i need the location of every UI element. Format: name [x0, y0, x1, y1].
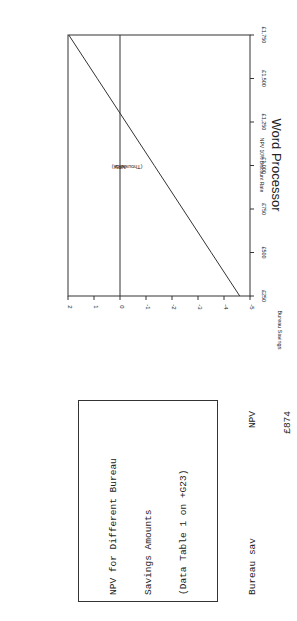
npv-line — [69, 35, 240, 296]
table-title-2: Savings Amounts — [143, 407, 155, 595]
npv-axis-ticks: 210-1-2-3-4-5 — [67, 296, 255, 310]
base-npv: £874 — [282, 411, 294, 503]
plot-frame — [68, 35, 250, 296]
table-header-row: Bureau sav NPV — [247, 407, 259, 595]
table-title-1: NPV for Different Bureau — [108, 407, 120, 595]
table-title-3: (Data Table 1 on +G23) — [178, 407, 190, 595]
chart-title: Word Processor — [269, 119, 284, 213]
y-axis-unit: (Thousands) — [111, 164, 142, 170]
x-axis-label: Bureau Savings — [277, 311, 283, 350]
header-bureau-sav: Bureau sav — [247, 503, 259, 595]
npv-tick-label: -5 — [249, 304, 255, 310]
npv-tick-label: -4 — [223, 304, 229, 310]
savings-tick-label: £500 — [261, 246, 267, 258]
npv-tick-label: -1 — [145, 304, 151, 310]
savings-tick-label: £750 — [261, 203, 267, 215]
savings-tick-label: £1,500 — [261, 70, 267, 87]
npv-tick-label: -3 — [197, 304, 203, 310]
npv-data-table: NPV for Different Bureau Savings Amounts… — [78, 400, 218, 602]
table-base-row: £874 — [282, 407, 294, 595]
npv-tick-label: -2 — [171, 304, 177, 310]
chart-subtitle: NPV 10% Discount Rate — [259, 138, 265, 193]
savings-tick-label: £250 — [261, 290, 267, 302]
header-npv: NPV — [247, 411, 259, 503]
npv-tick-label: 2 — [67, 305, 73, 309]
npv-tick-label: 1 — [93, 305, 99, 309]
npv-tick-label: 0 — [119, 305, 125, 309]
savings-tick-label: £1,250 — [261, 114, 267, 131]
savings-tick-label: £1,750 — [261, 27, 267, 44]
